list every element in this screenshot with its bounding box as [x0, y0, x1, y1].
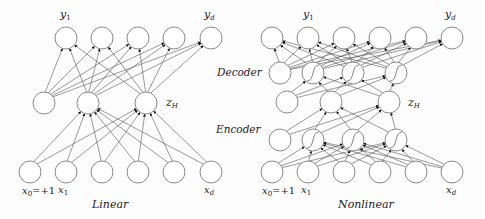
connection-edge [139, 49, 145, 92]
connection-edge [45, 48, 62, 92]
connection-edge [314, 112, 326, 130]
output-node [333, 27, 355, 49]
connection-edge [33, 109, 137, 167]
autoencoder-diagram: y1 yd zH x0=+1 x1 xd Linear Decoder Enco… [0, 0, 485, 219]
output-node [127, 27, 149, 49]
connection-edge [154, 111, 209, 164]
output-node [369, 27, 391, 49]
input-node [369, 161, 391, 183]
output-node [261, 27, 283, 49]
nonlinear-caption: Nonlinear [337, 198, 395, 211]
output-node [297, 27, 319, 49]
linear-input-x1-label: x1 [58, 184, 68, 197]
connection-edge [282, 47, 301, 65]
nonlinear-input-x1-label: x1 [301, 184, 311, 197]
connection-edge [68, 110, 137, 165]
bottleneck-node [378, 91, 400, 113]
decoder-label: Decoder [216, 66, 263, 78]
nonlinear-output-last-label: yd [444, 8, 456, 22]
linear-input-bias-label: x0=+1 [22, 185, 55, 198]
input-node [333, 161, 355, 183]
bottleneck-node [320, 91, 342, 113]
connection-edge [138, 114, 144, 161]
input-node [297, 161, 319, 183]
hidden-node [135, 92, 157, 114]
encoder-hidden-node [269, 129, 291, 151]
linear-caption: Linear [91, 198, 129, 211]
connection-edge [94, 112, 136, 163]
output-node [55, 27, 77, 49]
connection-edge [32, 111, 81, 163]
connection-edge [90, 47, 131, 95]
nonlinear-input-bias-label: x0=+1 [262, 185, 295, 198]
input-node [91, 161, 113, 183]
nonlinear-output-first-label: y1 [302, 8, 314, 22]
input-node [405, 161, 427, 183]
output-node [91, 27, 113, 49]
input-node [19, 161, 41, 183]
output-node [405, 27, 427, 49]
linear-output-last-label: yd [203, 8, 215, 22]
connection-edge [90, 114, 101, 161]
hidden-node [77, 92, 99, 114]
connection-edge [75, 45, 144, 96]
connection-edge [98, 108, 209, 166]
nonlinear-hidden-label: zH [407, 96, 421, 110]
hidden-node [33, 92, 55, 114]
connection-edge [148, 46, 203, 95]
connection-edge [89, 49, 100, 92]
connection-edge [274, 49, 279, 63]
linear-input-last-label: xd [204, 184, 215, 197]
input-node [441, 161, 463, 183]
connection-edge [47, 44, 129, 96]
output-node [163, 27, 185, 49]
linear-hidden-label: zH [165, 96, 179, 110]
decoder-hidden-node [269, 62, 291, 84]
input-node [200, 161, 222, 183]
connection-edge [91, 45, 166, 97]
connection-edge [150, 113, 173, 162]
bottleneck-node [276, 91, 298, 113]
nonlinear-input-last-label: xd [446, 184, 457, 197]
encoder-label: Encoder [215, 123, 262, 135]
input-node [261, 161, 283, 183]
connection-edge [390, 84, 394, 92]
input-node [163, 161, 185, 183]
linear-output-first-label: y1 [59, 8, 71, 22]
input-node [55, 161, 77, 183]
connection-edge [347, 49, 352, 63]
connection-edge [391, 113, 395, 129]
input-node [127, 161, 149, 183]
connection-edge [355, 47, 373, 65]
connection-edge [337, 112, 352, 131]
connection-edge [104, 112, 140, 162]
output-node [441, 27, 463, 49]
connection-edge [355, 110, 381, 132]
output-node [200, 27, 222, 49]
